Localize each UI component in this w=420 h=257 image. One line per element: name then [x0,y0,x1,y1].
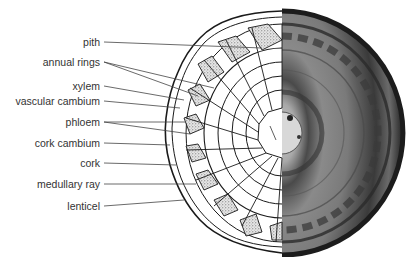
label-annual-rings: annual rings [43,56,100,68]
label-vascular-cambium: vascular cambium [15,95,100,107]
stem-cross-section-figure: pith annual rings xylem vascular cambium… [0,0,420,257]
micrograph-half [282,11,403,255]
label-medullary-ray: medullary ray [37,178,100,190]
label-phloem: phloem [66,116,100,128]
leader-lines [104,42,262,206]
label-cork: cork [80,157,100,169]
label-pith: pith [83,36,100,48]
cross-section-drawing [0,0,420,257]
label-cork-cambium: cork cambium [35,137,100,149]
label-xylem: xylem [73,80,100,92]
label-lenticel: lenticel [67,200,100,212]
